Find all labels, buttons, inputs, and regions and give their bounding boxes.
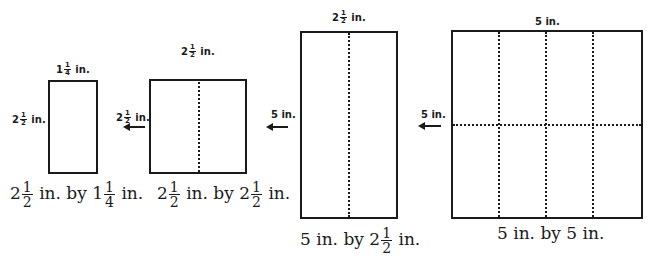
panel-2-width-label: 212 in. [181, 44, 215, 59]
panel-4-width-label: 5 in. [535, 16, 560, 28]
panel-1-height-label: 212 in. [12, 112, 46, 127]
panel-1-caption: 212 in. by 114 in. [10, 180, 143, 209]
panel-3-caption: 5 in. by 212 in. [300, 226, 420, 255]
arrow-2-label: 5 in. [271, 109, 296, 121]
arrow-1-label: 212 in. [116, 110, 150, 125]
arrow-left-icon [129, 126, 145, 128]
panel-3-fold-line [348, 33, 350, 217]
panel-3-width-label: 212 in. [332, 10, 366, 25]
panel-2-fold-line [198, 82, 200, 172]
arrow-left-icon [272, 126, 288, 128]
panel-2-caption: 212 in. by 212 in. [157, 180, 290, 209]
arrow-3-label: 5 in. [421, 109, 446, 121]
panel-4-fold-line-horizontal [453, 124, 641, 126]
panel-1-width-label: 114 in. [56, 62, 90, 77]
panel-1-rectangle [48, 80, 98, 174]
panel-4-caption: 5 in. by 5 in. [497, 223, 604, 243]
arrow-left-icon [424, 125, 441, 127]
